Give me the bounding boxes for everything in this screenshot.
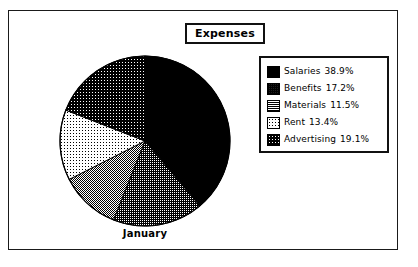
legend-item-label: Salaries bbox=[284, 67, 320, 76]
chart-title-box: Expenses bbox=[185, 23, 265, 44]
chart-legend: Salaries 38.9% Benefits 17.2% Materials … bbox=[259, 56, 389, 153]
legend-item-label: Advertising bbox=[284, 135, 336, 144]
page-title: Expenses bbox=[195, 28, 255, 39]
legend-item: Salaries 38.9% bbox=[267, 63, 382, 80]
legend-item: Advertising 19.1% bbox=[267, 131, 382, 148]
legend-item-percent: 13.4% bbox=[309, 118, 338, 127]
pie-svg bbox=[52, 52, 238, 232]
legend-item-percent: 11.5% bbox=[330, 101, 359, 110]
legend-item-percent: 38.9% bbox=[324, 67, 353, 76]
legend-swatch-icon bbox=[267, 134, 280, 146]
pie-category-label: January bbox=[95, 228, 195, 239]
legend-item: Rent 13.4% bbox=[267, 114, 382, 131]
legend-item-percent: 17.2% bbox=[326, 84, 355, 93]
legend-swatch-icon bbox=[267, 117, 280, 129]
legend-item-label: Rent bbox=[284, 118, 305, 127]
pie-chart bbox=[52, 52, 238, 232]
legend-item-label: Materials bbox=[284, 101, 326, 110]
legend-swatch-icon bbox=[267, 100, 280, 112]
legend-swatch-icon bbox=[267, 66, 280, 78]
legend-item-percent: 19.1% bbox=[340, 135, 369, 144]
pie-slice-group bbox=[60, 56, 230, 226]
chart-canvas: Expenses bbox=[0, 0, 418, 267]
legend-item: Benefits 17.2% bbox=[267, 80, 382, 97]
legend-swatch-icon bbox=[267, 83, 280, 95]
legend-item-label: Benefits bbox=[284, 84, 322, 93]
legend-item: Materials 11.5% bbox=[267, 97, 382, 114]
